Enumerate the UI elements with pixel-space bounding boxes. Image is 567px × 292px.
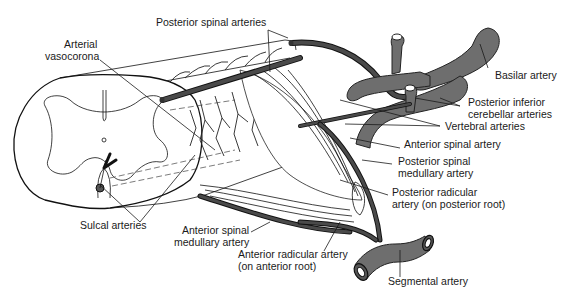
label-posterior-spinal-medullary-line2: medullary artery bbox=[398, 167, 474, 179]
label-anterior-spinal-medullary-line2: medullary artery bbox=[174, 236, 250, 248]
label-arterial-vasocorona-line1: Arterial bbox=[64, 38, 97, 50]
label-posterior-spinal-arteries: Posterior spinal arteries bbox=[156, 16, 266, 28]
label-posterior-radicular-line1: Posterior radicular bbox=[392, 186, 478, 198]
label-sulcal-arteries: Sulcal arteries bbox=[80, 219, 147, 231]
label-vertebral-arteries: Vertebral arteries bbox=[445, 120, 525, 132]
label-posterior-spinal-medullary-line1: Posterior spinal bbox=[398, 155, 470, 167]
label-pica-line2: cerebellar arteries bbox=[468, 108, 552, 120]
label-posterior-radicular-line2: artery (on posterior root) bbox=[392, 198, 505, 210]
label-basilar-artery: Basilar artery bbox=[495, 69, 558, 81]
label-arterial-vasocorona-line2: vasocorona bbox=[45, 50, 99, 62]
label-anterior-radicular-line2: (on anterior root) bbox=[238, 260, 316, 272]
label-segmental-artery: Segmental artery bbox=[388, 275, 469, 287]
label-pica-line1: Posterior inferior bbox=[468, 96, 546, 108]
spinal-cord-arterial-supply-diagram: Posterior spinal arteries Arterial vasoc… bbox=[0, 0, 567, 292]
label-anterior-spinal-medullary-line1: Anterior spinal bbox=[182, 224, 249, 236]
label-anterior-spinal-artery: Anterior spinal artery bbox=[404, 138, 502, 150]
label-anterior-radicular-line1: Anterior radicular artery bbox=[238, 248, 348, 260]
